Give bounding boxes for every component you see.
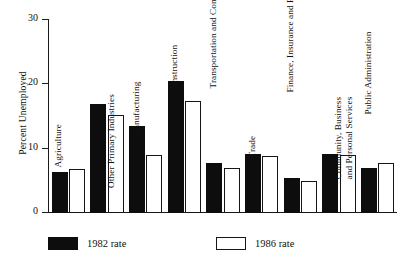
- y-tick-30: 30: [42, 19, 49, 20]
- bar: [262, 156, 278, 213]
- bar: [146, 155, 162, 213]
- category-label: Community, Business and Personal Service…: [333, 90, 354, 186]
- chart-legend: 1982 rate1986 rate: [48, 237, 378, 259]
- bar: [245, 154, 261, 213]
- y-tick-label: 20: [28, 76, 38, 87]
- category-label: Construction: [169, 45, 180, 94]
- category-label: Public Administration: [362, 31, 373, 114]
- bar: [69, 169, 85, 213]
- bar: [301, 181, 317, 213]
- unemployment-bar-chart: Percent Unemployed 0102030 AgricultureOt…: [0, 0, 405, 273]
- bar: [284, 178, 300, 213]
- legend-swatch: [216, 237, 246, 250]
- legend-label: 1986 rate: [255, 238, 294, 249]
- category-label: Finance, Insurance and Real Estate: [285, 0, 296, 93]
- bar: [168, 81, 184, 213]
- legend-item: 1982 rate: [48, 237, 126, 250]
- y-tick-label: 0: [33, 205, 38, 216]
- bar: [90, 104, 106, 213]
- bar-group: [52, 20, 86, 213]
- category-label: Other Primary Industries: [106, 93, 117, 189]
- legend-label: 1982 rate: [87, 238, 126, 249]
- y-axis-title: Percent Unemployed: [18, 43, 28, 183]
- category-label: Trade: [246, 136, 257, 158]
- bar-group: [245, 20, 279, 213]
- bar: [378, 163, 394, 213]
- bar: [129, 126, 145, 213]
- bar: [52, 172, 68, 213]
- plot-area: 0102030 AgricultureOther Primary Industr…: [48, 20, 397, 213]
- bar: [185, 101, 201, 213]
- legend-swatch: [48, 237, 78, 250]
- bar: [224, 168, 240, 213]
- y-tick-10: 10: [42, 148, 49, 149]
- y-tick-label: 10: [28, 141, 38, 152]
- y-tick-0: 0: [42, 212, 49, 213]
- category-label: Manufacturing: [130, 82, 141, 138]
- bar: [206, 163, 222, 213]
- category-label: Agriculture: [53, 124, 64, 167]
- category-label: Transportation and Communication: [208, 0, 219, 89]
- y-tick-label: 30: [28, 12, 38, 23]
- legend-item: 1986 rate: [216, 237, 294, 250]
- bar: [361, 168, 377, 213]
- y-tick-20: 20: [42, 83, 49, 84]
